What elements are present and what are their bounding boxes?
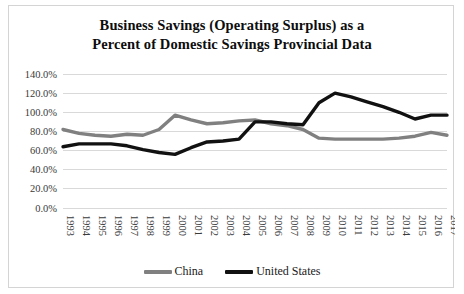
series-line-china <box>63 115 447 139</box>
x-axis-tick-label: 2013 <box>385 215 396 236</box>
y-axis-tick-label: 120.0% <box>25 88 58 99</box>
x-axis-tick-label: 2000 <box>177 215 188 236</box>
x-axis-tick-label: 2014 <box>401 215 412 237</box>
x-axis-tick-label: 2015 <box>417 215 428 236</box>
y-axis-tick-label: 80.0% <box>30 126 57 137</box>
legend-swatch <box>225 270 253 274</box>
chart-container: Business Savings (Operating Surplus) as … <box>8 5 454 288</box>
x-axis-tick-labels: 1993199419951996199719981999200020012002… <box>65 215 455 237</box>
y-axis-tick-label: 20.0% <box>30 183 57 194</box>
y-axis-tick-label: 40.0% <box>30 164 57 175</box>
gridlines <box>63 74 447 208</box>
x-axis-tick-label: 2012 <box>369 215 380 236</box>
y-axis-tick-label: 140.0% <box>25 69 58 80</box>
legend-swatch <box>144 270 172 274</box>
x-axis-tick-label: 2011 <box>353 215 364 236</box>
x-axis-tick-label: 1993 <box>65 215 76 236</box>
x-axis-tick-label: 2009 <box>321 215 332 236</box>
legend-label: China <box>175 264 204 279</box>
x-axis-tick-label: 1996 <box>113 215 124 236</box>
x-axis-tick-label: 2016 <box>433 215 444 236</box>
x-axis-tick-label: 2006 <box>273 215 284 236</box>
x-axis-tick-label: 2010 <box>337 215 348 236</box>
line-chart-plot: 0.0%20.0%40.0%60.0%80.0%100.0%120.0%140.… <box>9 6 455 289</box>
chart-legend: ChinaUnited States <box>9 264 455 279</box>
x-axis-tick-label: 1999 <box>161 215 172 236</box>
y-axis-tick-label: 60.0% <box>30 145 57 156</box>
x-axis-tick-label: 2008 <box>305 215 316 236</box>
y-axis-tick-label: 0.0% <box>35 203 57 214</box>
x-axis-tick-label: 1995 <box>97 215 108 236</box>
x-axis-tick-label: 1994 <box>81 215 92 237</box>
legend-item-china[interactable]: China <box>144 264 204 279</box>
y-axis-tick-labels: 0.0%20.0%40.0%60.0%80.0%100.0%120.0%140.… <box>25 69 58 214</box>
legend-item-united-states[interactable]: United States <box>225 264 320 279</box>
x-axis-tick-label: 1997 <box>129 215 140 236</box>
x-axis-tick-label: 1998 <box>145 215 156 236</box>
x-axis-tick-label: 2007 <box>289 215 300 236</box>
x-axis-tick-label: 2003 <box>225 215 236 236</box>
x-axis-tick-label: 2002 <box>209 215 220 236</box>
y-axis-tick-label: 100.0% <box>25 107 58 118</box>
x-axis-tick-label: 2017 <box>449 215 455 236</box>
x-axis-tick-label: 2001 <box>193 215 204 236</box>
series-line-united-states <box>63 93 447 154</box>
data-series <box>63 93 447 154</box>
x-axis-tick-label: 2004 <box>241 215 252 237</box>
x-axis-tick-label: 2005 <box>257 215 268 236</box>
legend-label: United States <box>256 264 320 279</box>
